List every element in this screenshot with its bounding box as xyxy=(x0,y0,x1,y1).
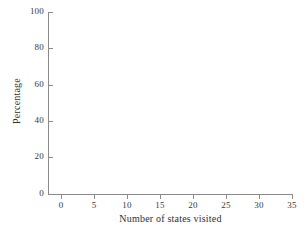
x-axis-tick-20 xyxy=(193,195,194,199)
y-axis-tick-label-100: 100 xyxy=(4,7,44,16)
x-axis-line xyxy=(48,194,293,195)
x-axis-tick-label-35: 35 xyxy=(277,200,306,210)
x-axis-tick-30 xyxy=(259,195,260,199)
x-axis-tick-10 xyxy=(127,195,128,199)
x-axis-tick-25 xyxy=(226,195,227,199)
y-axis-tick-100 xyxy=(49,12,53,13)
x-axis-tick-label-30: 30 xyxy=(244,200,274,210)
x-axis-tick-label-0: 0 xyxy=(46,200,76,210)
y-axis-tick-label-0: 0 xyxy=(4,189,44,198)
y-axis-tick-40 xyxy=(49,121,53,122)
y-axis-title: Percentage xyxy=(11,46,23,156)
y-axis-tick-label-80: 80 xyxy=(4,43,44,52)
x-axis-tick-5 xyxy=(94,195,95,199)
y-axis-tick-label-60: 60 xyxy=(4,80,44,89)
x-axis-tick-label-10: 10 xyxy=(112,200,142,210)
x-axis-title: Number of states visited xyxy=(48,213,293,225)
y-axis-tick-label-20: 20 xyxy=(4,152,44,161)
y-axis-tick-20 xyxy=(49,157,53,158)
y-axis-tick-80 xyxy=(49,48,53,49)
y-axis-tick-60 xyxy=(49,85,53,86)
x-axis-tick-label-5: 5 xyxy=(79,200,109,210)
y-axis-tick-0 xyxy=(49,194,53,195)
chart-figure: 100 80 60 40 20 0 0 5 10 15 20 25 30 35 … xyxy=(0,0,306,233)
y-axis-line xyxy=(48,12,49,195)
x-axis-tick-label-20: 20 xyxy=(178,200,208,210)
x-axis-tick-label-25: 25 xyxy=(211,200,241,210)
x-axis-tick-label-15: 15 xyxy=(145,200,175,210)
x-axis-tick-0 xyxy=(61,195,62,199)
y-axis-tick-label-40: 40 xyxy=(4,116,44,125)
x-axis-tick-15 xyxy=(160,195,161,199)
plot-area xyxy=(48,12,292,194)
data-series-layer xyxy=(48,12,292,194)
x-axis-tick-35 xyxy=(292,195,293,199)
